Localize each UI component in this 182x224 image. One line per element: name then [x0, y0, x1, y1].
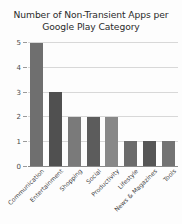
y-tick-mark-1 [23, 141, 27, 142]
bar-series [28, 43, 178, 166]
y-tick-label-5: 5 [17, 40, 21, 47]
chart-title-line-2: Google Play Category [42, 21, 139, 32]
chart-title-line-1: Number of Non-Transient Apps per [14, 9, 169, 20]
y-tick-mark-2 [23, 116, 27, 117]
bar [162, 141, 175, 166]
bar [124, 141, 137, 166]
y-tick-label-0: 0 [17, 164, 21, 171]
bar-chart-figure: Number of Non-Transient Apps per Google … [0, 0, 182, 224]
y-tick-label-3: 3 [17, 89, 21, 96]
bar [87, 117, 100, 166]
y-tick-label-4: 4 [17, 64, 21, 71]
y-tick-label-1: 1 [17, 139, 21, 146]
y-tick-label-2: 2 [17, 114, 21, 121]
y-tick-mark-0 [23, 166, 27, 167]
bar [49, 92, 62, 166]
y-axis: 012345 [0, 43, 28, 167]
x-axis-category-labels: CommunicationEntertainmentShoppingSocial… [28, 168, 182, 224]
bar [143, 141, 156, 166]
bar [68, 117, 81, 166]
plot-area [28, 43, 178, 167]
bar [30, 43, 43, 166]
x-axis-line [28, 166, 178, 167]
y-tick-mark-3 [23, 92, 27, 93]
chart-title: Number of Non-Transient Apps per Google … [6, 9, 176, 32]
y-tick-mark-4 [23, 67, 27, 68]
y-tick-mark-5 [23, 42, 27, 43]
x-axis-label: Tools [162, 168, 177, 183]
bar [105, 117, 118, 166]
